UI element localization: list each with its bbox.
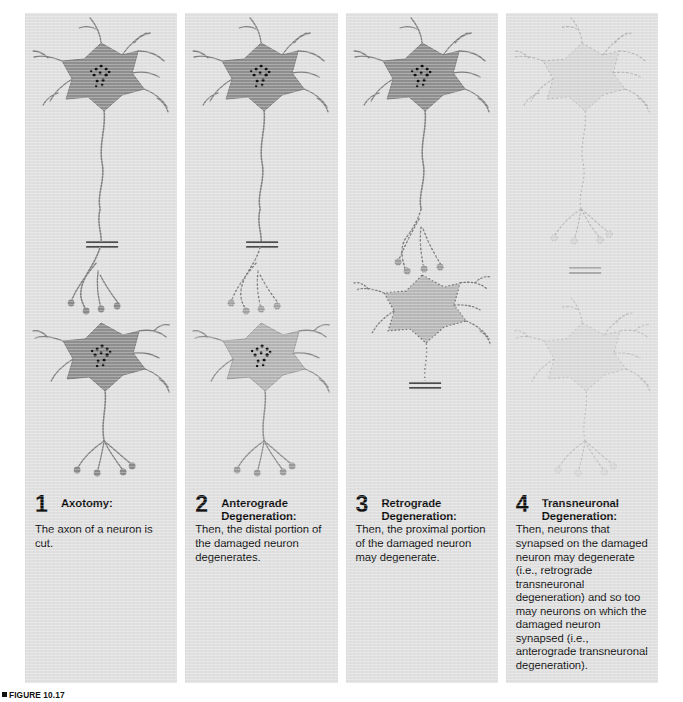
panel-anterograde-degeneration: 2 Anterograde Degeneration: Then, the di… — [185, 13, 337, 683]
axon-cut-mark-1 — [86, 242, 118, 247]
figure-label-text: FIGURE 10.17 — [9, 690, 65, 700]
degenerating-terminals-3 — [394, 259, 442, 274]
axon-cut-mark-4 — [569, 268, 601, 273]
panel-4-title: Transneuronal Degeneration: — [542, 497, 650, 523]
degenerating-distal-axon — [228, 247, 280, 314]
panel-2-caption: 2 Anterograde Degeneration: Then, the di… — [185, 497, 337, 564]
neuron-top-healthy — [354, 18, 489, 209]
degenerating-terminals — [228, 300, 280, 314]
panel-3-caption: 3 Retrograde Degeneration: Then, the pro… — [346, 497, 498, 564]
neuron-middle-healthy — [193, 323, 329, 476]
panel-1-illustration — [25, 13, 177, 485]
panel-3-heading: 3 Retrograde Degeneration: — [356, 497, 490, 523]
panel-2-title: Anterograde Degeneration: — [221, 497, 329, 523]
terminal-buttons-1b — [74, 463, 136, 477]
panel-1-heading: 1 Axotomy: — [35, 497, 169, 523]
panel-1-title: Axotomy: — [61, 497, 169, 510]
panel-2-heading: 2 Anterograde Degeneration: — [195, 497, 329, 523]
neuron-bottom-ghost — [514, 298, 650, 476]
terminal-buttons-2 — [234, 463, 296, 477]
neuron-top-healthy — [33, 18, 168, 209]
panel-4-illustration — [506, 13, 658, 485]
ghost-terminals-top — [551, 231, 612, 244]
neuron-top-ghost — [514, 18, 649, 244]
panel-2-illustration — [185, 13, 337, 485]
panel-4-number: 4 — [516, 493, 528, 516]
axon-cut-mark-3 — [409, 383, 441, 388]
ghost-terminals-bottom — [555, 463, 616, 476]
panel-2-body: Then, the distal portion of the damaged … — [195, 523, 329, 564]
panel-3-title: Retrograde Degeneration: — [382, 497, 490, 523]
panel-row: 1 Axotomy: The axon of a neuron is cut. — [25, 13, 658, 683]
degenerating-proximal-neuron — [354, 209, 490, 381]
figure-container: 1 Axotomy: The axon of a neuron is cut. — [0, 0, 683, 702]
figure-label: FIGURE 10.17 — [2, 690, 65, 701]
panel-transneuronal-degeneration: 4 Transneuronal Degeneration: Then, neur… — [506, 13, 658, 683]
panel-4-body: Then, neurons that synapsed on the damag… — [516, 523, 650, 672]
terminal-buttons-1 — [68, 300, 121, 315]
panel-4-heading: 4 Transneuronal Degeneration: — [516, 497, 650, 523]
panel-retrograde-degeneration: 3 Retrograde Degeneration: Then, the pro… — [346, 13, 498, 683]
panel-4-caption: 4 Transneuronal Degeneration: Then, neur… — [506, 497, 658, 672]
figure-bullet-icon — [2, 692, 7, 697]
panel-3-number: 3 — [356, 493, 368, 516]
panel-1-caption: 1 Axotomy: The axon of a neuron is cut. — [25, 497, 177, 550]
panel-axotomy: 1 Axotomy: The axon of a neuron is cut. — [25, 13, 177, 683]
axon-cut-mark-2 — [246, 242, 278, 247]
panel-3-illustration — [346, 13, 498, 485]
panel-2-number: 2 — [195, 493, 207, 516]
panel-1-body: The axon of a neuron is cut. — [35, 523, 169, 550]
neuron-top-healthy — [193, 18, 328, 242]
neuron-middle-healthy — [33, 247, 169, 476]
panel-1-number: 1 — [35, 493, 47, 516]
panel-3-body: Then, the proximal portion of the damage… — [356, 523, 490, 564]
